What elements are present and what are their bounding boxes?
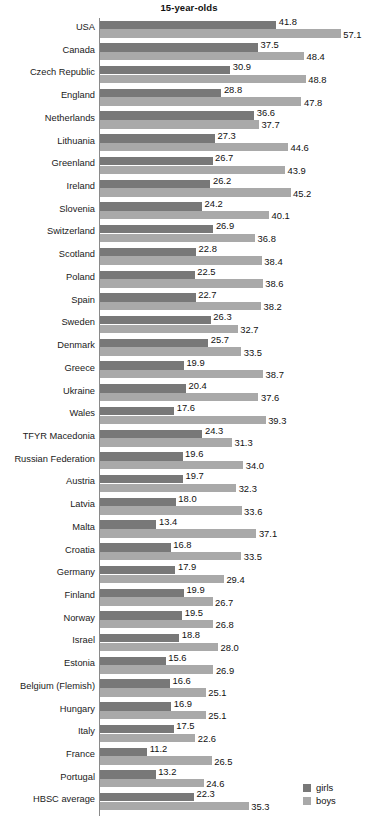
category-label: Israel bbox=[0, 635, 95, 646]
value-label-boys: 38.7 bbox=[266, 370, 284, 380]
bar-girls[interactable] bbox=[100, 407, 174, 415]
bar-girls[interactable] bbox=[100, 498, 176, 506]
bar-girls[interactable] bbox=[100, 43, 258, 51]
bar-row: Ireland26.245.2 bbox=[0, 177, 378, 200]
bar-girls[interactable] bbox=[100, 202, 202, 210]
bar-boys[interactable] bbox=[100, 461, 243, 469]
bar-row: Scotland22.838.4 bbox=[0, 245, 378, 268]
legend-item-girls[interactable]: girls bbox=[303, 782, 373, 794]
category-label: Spain bbox=[0, 295, 95, 306]
bar-boys[interactable] bbox=[100, 597, 213, 605]
value-label-girls: 24.3 bbox=[205, 426, 223, 436]
bar-boys[interactable] bbox=[100, 393, 258, 401]
bar-boys[interactable] bbox=[100, 552, 241, 560]
bar-girls[interactable] bbox=[100, 361, 184, 369]
bar-girls[interactable] bbox=[100, 384, 186, 392]
bar-boys[interactable] bbox=[100, 506, 242, 514]
bar-boys[interactable] bbox=[100, 484, 236, 492]
value-label-girls: 28.8 bbox=[224, 85, 242, 95]
bar-girls[interactable] bbox=[100, 793, 194, 801]
bar-girls[interactable] bbox=[100, 702, 171, 710]
bar-boys[interactable] bbox=[100, 302, 261, 310]
legend-item-boys[interactable]: boys bbox=[303, 795, 373, 807]
bar-girls[interactable] bbox=[100, 271, 195, 279]
bar-girls[interactable] bbox=[100, 180, 210, 188]
value-label-girls: 24.2 bbox=[205, 199, 223, 209]
bar-boys[interactable] bbox=[100, 143, 288, 151]
bar-boys[interactable] bbox=[100, 166, 285, 174]
bar-girls[interactable] bbox=[100, 316, 211, 324]
bar-boys[interactable] bbox=[100, 120, 259, 128]
bar-boys[interactable] bbox=[100, 575, 224, 583]
bar-girls[interactable] bbox=[100, 770, 156, 778]
bar-girls[interactable] bbox=[100, 452, 183, 460]
value-label-boys: 26.7 bbox=[215, 598, 233, 608]
bar-boys[interactable] bbox=[100, 438, 232, 446]
bar-row: Greenland26.743.9 bbox=[0, 154, 378, 177]
bar-group: 17.522.6 bbox=[100, 722, 378, 745]
bar-boys[interactable] bbox=[100, 234, 255, 242]
bar-girls[interactable] bbox=[100, 293, 196, 301]
category-label: Canada bbox=[0, 45, 95, 56]
bar-girls[interactable] bbox=[100, 679, 170, 687]
bar-girls[interactable] bbox=[100, 21, 276, 29]
bar-girls[interactable] bbox=[100, 225, 213, 233]
bar-boys[interactable] bbox=[100, 416, 266, 424]
bar-girls[interactable] bbox=[100, 725, 174, 733]
bar-girls[interactable] bbox=[100, 566, 175, 574]
bar-girls[interactable] bbox=[100, 634, 179, 642]
bar-boys[interactable] bbox=[100, 75, 306, 83]
bar-girls[interactable] bbox=[100, 543, 171, 551]
bar-boys[interactable] bbox=[100, 802, 249, 810]
bar-girls[interactable] bbox=[100, 657, 166, 665]
bar-girls[interactable] bbox=[100, 339, 208, 347]
bar-girls[interactable] bbox=[100, 611, 182, 619]
bar-girls[interactable] bbox=[100, 520, 156, 528]
value-label-boys: 38.2 bbox=[264, 302, 282, 312]
bar-group: 41.857.1 bbox=[100, 18, 378, 41]
bar-girls[interactable] bbox=[100, 89, 221, 97]
bar-girls[interactable] bbox=[100, 66, 230, 74]
bar-row: Canada37.548.4 bbox=[0, 41, 378, 64]
bar-boys[interactable] bbox=[100, 325, 238, 333]
value-label-girls: 19.9 bbox=[186, 585, 204, 595]
value-label-girls: 11.2 bbox=[150, 744, 168, 754]
bar-girls[interactable] bbox=[100, 589, 184, 597]
bar-boys[interactable] bbox=[100, 688, 206, 696]
bar-girls[interactable] bbox=[100, 248, 196, 256]
bar-row: France11.226.5 bbox=[0, 745, 378, 768]
bar-group: 16.833.5 bbox=[100, 541, 378, 564]
value-label-boys: 22.6 bbox=[198, 734, 216, 744]
bar-boys[interactable] bbox=[100, 256, 262, 264]
bar-boys[interactable] bbox=[100, 52, 304, 60]
bar-girls[interactable] bbox=[100, 430, 202, 438]
bar-girls[interactable] bbox=[100, 748, 147, 756]
bar-boys[interactable] bbox=[100, 711, 206, 719]
bar-boys[interactable] bbox=[100, 370, 263, 378]
bar-girls[interactable] bbox=[100, 157, 213, 165]
bar-boys[interactable] bbox=[100, 211, 269, 219]
bar-boys[interactable] bbox=[100, 529, 256, 537]
category-label: Russian Federation bbox=[0, 454, 95, 465]
bar-boys[interactable] bbox=[100, 643, 218, 651]
bar-boys[interactable] bbox=[100, 97, 301, 105]
bar-girls[interactable] bbox=[100, 134, 215, 142]
bar-boys[interactable] bbox=[100, 665, 213, 673]
bar-girls[interactable] bbox=[100, 111, 254, 119]
bar-group: 25.733.5 bbox=[100, 336, 378, 359]
value-label-boys: 25.1 bbox=[208, 711, 226, 721]
value-label-boys: 37.7 bbox=[261, 120, 279, 130]
value-label-girls: 30.9 bbox=[233, 62, 251, 72]
bar-boys[interactable] bbox=[100, 620, 213, 628]
value-label-boys: 33.5 bbox=[244, 552, 262, 562]
bar-boys[interactable] bbox=[100, 279, 263, 287]
bar-boys[interactable] bbox=[100, 188, 291, 196]
bar-boys[interactable] bbox=[100, 29, 341, 37]
bar-boys[interactable] bbox=[100, 734, 195, 742]
bar-boys[interactable] bbox=[100, 756, 212, 764]
category-label: Sweden bbox=[0, 317, 95, 328]
bar-boys[interactable] bbox=[100, 347, 241, 355]
bar-boys[interactable] bbox=[100, 779, 204, 787]
bar-girls[interactable] bbox=[100, 475, 183, 483]
legend-swatch-icon bbox=[303, 797, 311, 805]
